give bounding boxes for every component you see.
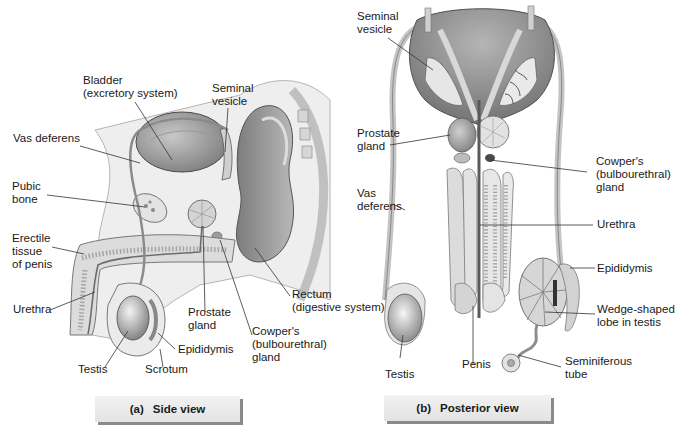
label-scrotum: Scrotum — [145, 363, 188, 376]
label-seminal-vesicle-b: Seminal vesicle — [357, 10, 399, 36]
label-vas-deferens: Vas deferens — [13, 132, 80, 145]
panel-side-view: Bladder (excretory system) Seminal vesic… — [0, 0, 345, 435]
panel-posterior-view: Seminal vesicle Prostate gland Cowper's … — [345, 0, 677, 435]
label-prostate-gland-a: Prostate gland — [188, 306, 231, 332]
label-seminal-vesicle: Seminal vesicle — [212, 82, 254, 108]
caption-title-b: Posterior view — [440, 402, 519, 414]
label-wedge-lobe: Wedge-shaped lobe in testis — [597, 303, 675, 329]
label-seminiferous-tube: Seminiferous tube — [565, 355, 632, 381]
caption-side-view: (a) Side view — [95, 396, 240, 422]
label-vas-deferens-b: Vas deferens — [357, 187, 402, 213]
label-testis-a: Testis — [78, 363, 107, 376]
caption-tag-a: (a) — [130, 403, 144, 415]
label-prostate-gland-b: Prostate gland — [357, 127, 400, 153]
label-urethra-b: Urethra — [597, 218, 635, 231]
caption-tag-b: (b) — [416, 402, 431, 414]
label-epididymis-b: Epididymis — [597, 262, 653, 275]
label-testis-b: Testis — [385, 368, 414, 381]
label-urethra-a: Urethra — [13, 303, 51, 316]
label-epididymis-a: Epididymis — [178, 343, 234, 356]
label-cowpers-gland-b: Cowper's (bulbourethral) gland — [596, 155, 671, 194]
label-pubic-bone: Pubic bone — [12, 180, 41, 206]
caption-posterior-view: (b) Posterior view — [384, 395, 551, 421]
caption-title-a: Side view — [153, 403, 205, 415]
label-cowpers-gland-a: Cowper's (bulbourethral) gland — [252, 325, 327, 364]
label-penis: Penis — [462, 358, 491, 371]
label-erectile-tissue: Erectile tissue of penis — [12, 232, 52, 271]
label-bladder: Bladder (excretory system) — [83, 74, 178, 100]
